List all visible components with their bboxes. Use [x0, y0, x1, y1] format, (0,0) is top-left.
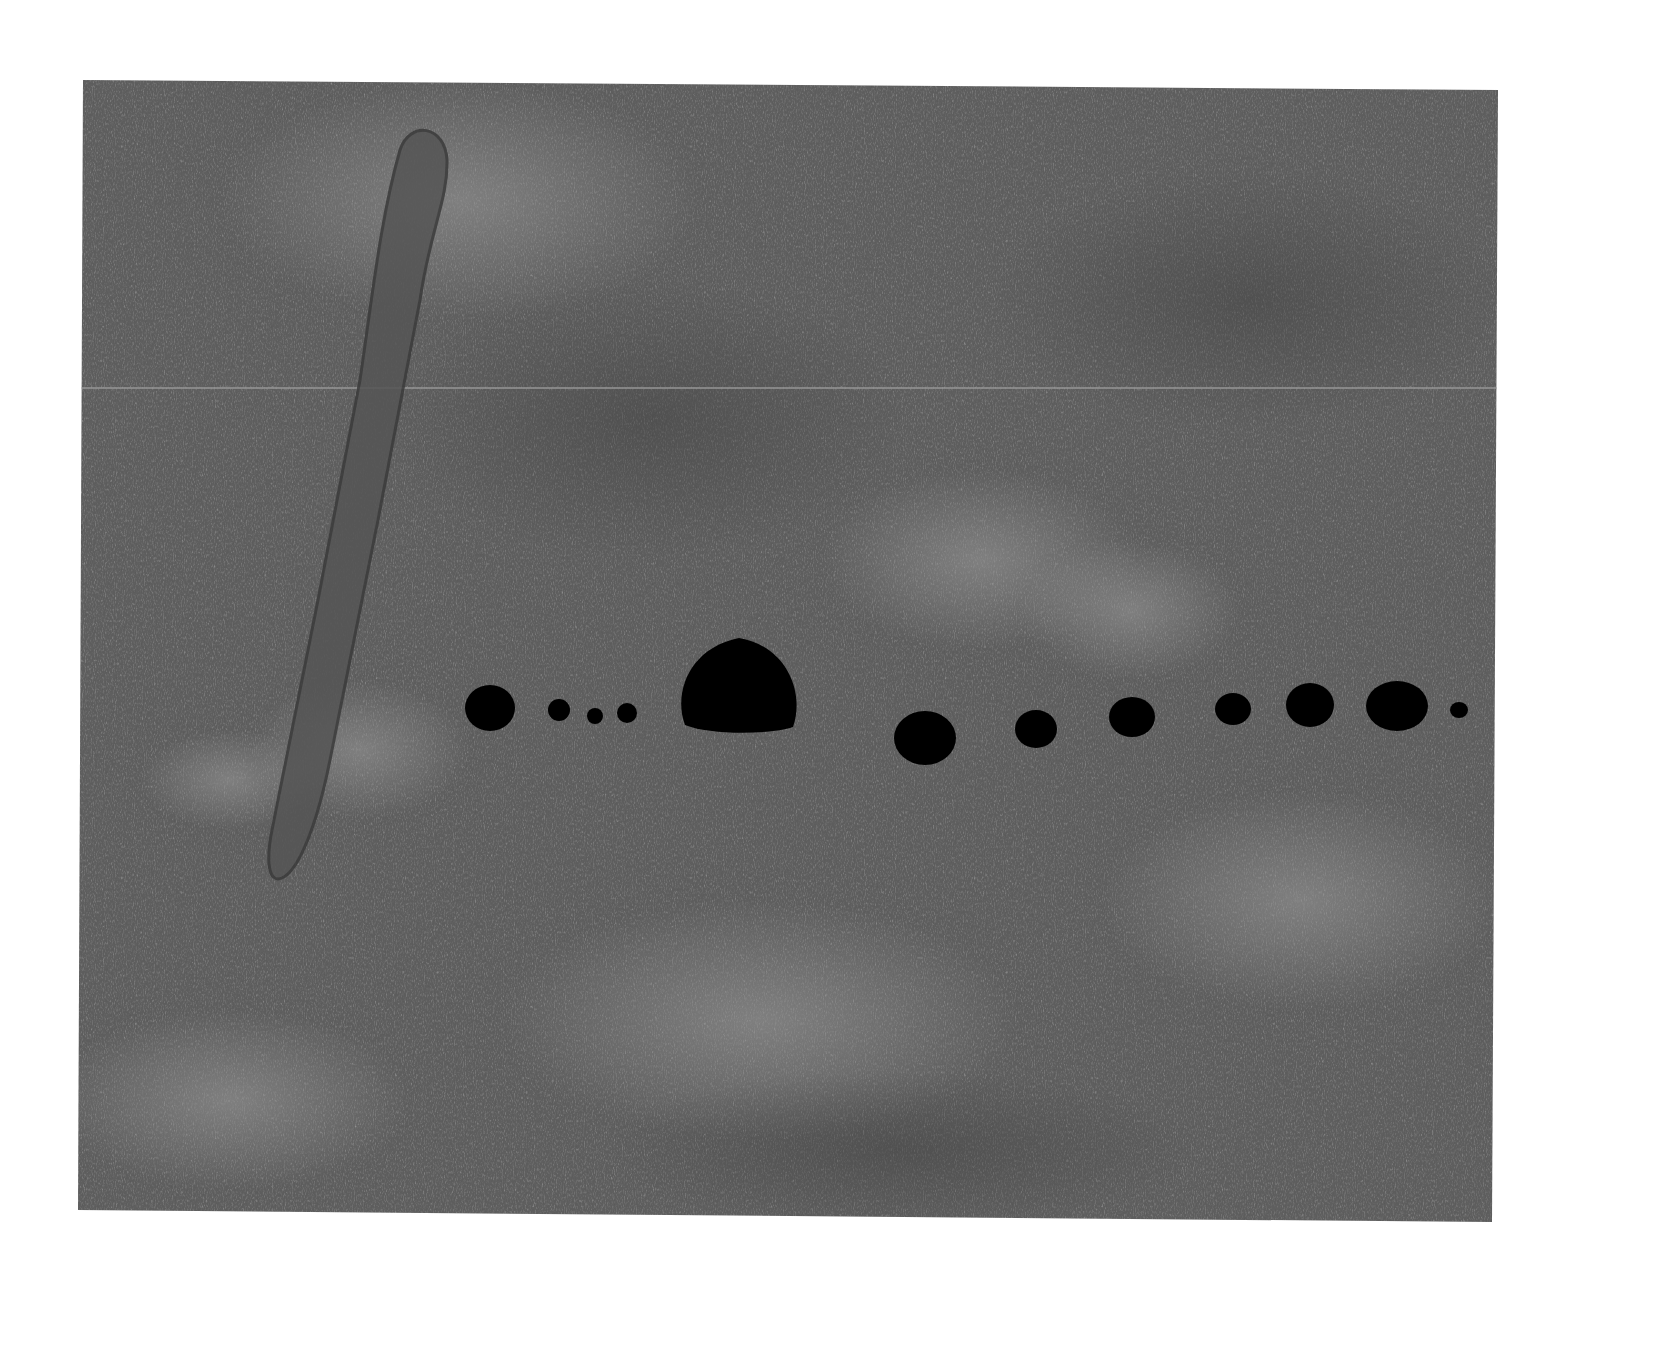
black-dot	[894, 711, 956, 765]
black-dot	[617, 703, 637, 723]
black-dot	[465, 685, 515, 731]
canvas	[0, 80, 1658, 1230]
black-dot	[1286, 683, 1334, 727]
black-dot	[1366, 681, 1428, 731]
black-dot	[1215, 693, 1251, 725]
black-dot	[1450, 702, 1468, 718]
black-dot	[1015, 710, 1057, 748]
black-dot	[1109, 697, 1155, 737]
black-dot	[548, 699, 570, 721]
painting	[0, 0, 1658, 1370]
black-dot	[587, 708, 603, 724]
